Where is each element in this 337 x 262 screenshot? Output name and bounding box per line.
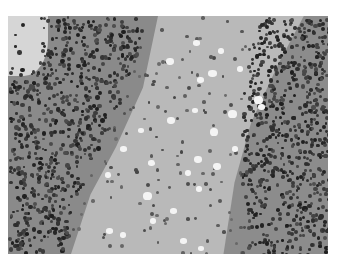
micrograph-image — [8, 16, 328, 254]
vacuoles-layer — [8, 16, 328, 254]
